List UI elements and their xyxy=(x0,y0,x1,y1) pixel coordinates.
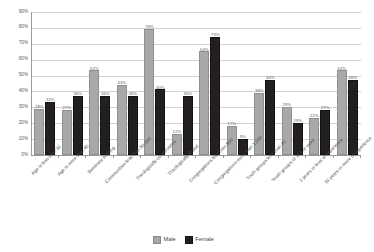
y-axis-tick-0: 0% xyxy=(0,153,28,158)
legend-swatch-icon xyxy=(185,236,193,244)
y-axis-tick-70: 70% xyxy=(0,41,28,46)
bar-group: 64%73% xyxy=(196,12,224,155)
bar-group: 27%36% xyxy=(59,12,87,155)
bar-male[interactable]: 28% xyxy=(34,109,44,155)
bar-value-label: 19% xyxy=(294,119,302,123)
bar-female[interactable]: 36% xyxy=(183,96,193,155)
x-axis-label: Youth groups less than 41 xyxy=(251,157,279,233)
bar-male[interactable]: 27% xyxy=(62,110,72,155)
bar-female[interactable]: 73% xyxy=(210,37,220,155)
bar-value-label: 78% xyxy=(145,25,153,29)
bar-value-label: 12% xyxy=(173,130,181,134)
y-axis-tick-20: 20% xyxy=(0,121,28,126)
x-axis-label: 10 years or more of experience xyxy=(334,157,362,233)
y-axis-tick-50: 50% xyxy=(0,73,28,78)
chart-legend: MaleFemale xyxy=(0,236,367,244)
bar-group: 22%27% xyxy=(306,12,334,155)
bar-groups: 28%32%27%36%52%36%43%36%78%40%12%36%64%7… xyxy=(31,12,361,155)
bar-group: 17%9% xyxy=(224,12,252,155)
bar-value-label: 46% xyxy=(349,76,357,80)
bar-female[interactable]: 46% xyxy=(265,80,275,155)
bar-male[interactable]: 29% xyxy=(282,107,292,155)
bar-group: 52%46% xyxy=(334,12,362,155)
bar-value-label: 27% xyxy=(321,106,329,110)
y-axis-tick-60: 60% xyxy=(0,57,28,62)
x-axis-label: Congregations more than 1,000 xyxy=(224,157,252,233)
bar-value-label: 36% xyxy=(129,92,137,96)
bar-group: 78%40% xyxy=(141,12,169,155)
bar-value-label: 9% xyxy=(240,135,246,139)
bar-group: 28%32% xyxy=(31,12,59,155)
bar-value-label: 17% xyxy=(228,122,236,126)
y-axis-tick-90: 90% xyxy=(0,10,28,15)
x-axis-label: 3 years or less of experience xyxy=(306,157,334,233)
bar-value-label: 22% xyxy=(310,114,318,118)
bar-value-label: 36% xyxy=(184,92,192,96)
bar-value-label: 38% xyxy=(255,89,263,93)
x-axis-label: Theologically conservative xyxy=(141,157,169,233)
legend-label: Female xyxy=(195,237,214,243)
legend-item-male[interactable]: Male xyxy=(153,236,176,244)
x-axis-label: Congregations less than 500 xyxy=(196,157,224,233)
bar-female[interactable]: 40% xyxy=(155,89,165,155)
bar-group: 52%36% xyxy=(86,12,114,155)
bar-value-label: 32% xyxy=(46,98,54,102)
bar-value-label: 29% xyxy=(283,103,291,107)
bar-value-label: 36% xyxy=(101,92,109,96)
bar-male[interactable]: 22% xyxy=(309,118,319,155)
y-axis-tick-10: 10% xyxy=(0,137,28,142)
legend-item-female[interactable]: Female xyxy=(185,236,214,244)
bar-value-label: 28% xyxy=(35,105,43,109)
y-axis-tick-80: 80% xyxy=(0,25,28,30)
bar-male[interactable]: 43% xyxy=(117,85,127,155)
bar-value-label: 27% xyxy=(63,106,71,110)
bar-value-label: 73% xyxy=(211,33,219,37)
x-axis-label: Seminary training xyxy=(86,157,114,233)
legend-swatch-icon xyxy=(153,236,161,244)
legend-label: Male xyxy=(164,237,176,243)
x-axis-label: Communities less than 50,000 xyxy=(114,157,142,233)
x-axis-label: Theologically liberal xyxy=(169,157,197,233)
x-axis-category-labels: Age is less than 30Age is more than 40Se… xyxy=(31,157,361,233)
bar-value-label: 64% xyxy=(200,48,208,52)
y-axis-tick-30: 30% xyxy=(0,105,28,110)
bar-value-label: 46% xyxy=(266,76,274,80)
y-axis-tick-40: 40% xyxy=(0,89,28,94)
bar-male[interactable]: 64% xyxy=(199,51,209,155)
bar-female[interactable]: 36% xyxy=(128,96,138,155)
bar-female[interactable]: 46% xyxy=(348,80,358,155)
bar-group: 12%36% xyxy=(169,12,197,155)
x-axis-label: Age is less than 30 xyxy=(31,157,59,233)
bar-value-label: 43% xyxy=(118,81,126,85)
bar-value-label: 52% xyxy=(90,67,98,71)
bar-male[interactable]: 52% xyxy=(89,70,99,155)
bar-group: 43%36% xyxy=(114,12,142,155)
x-axis-label: Age is more than 40 xyxy=(59,157,87,233)
bar-group: 38%46% xyxy=(251,12,279,155)
bar-female[interactable]: 36% xyxy=(100,96,110,155)
bar-value-label: 52% xyxy=(338,67,346,71)
bar-group: 29%19% xyxy=(279,12,307,155)
x-axis-label: Youth groups of 101 or more xyxy=(279,157,307,233)
bar-female[interactable]: 36% xyxy=(73,96,83,155)
bar-value-label: 36% xyxy=(74,92,82,96)
bar-value-label: 40% xyxy=(156,86,164,90)
